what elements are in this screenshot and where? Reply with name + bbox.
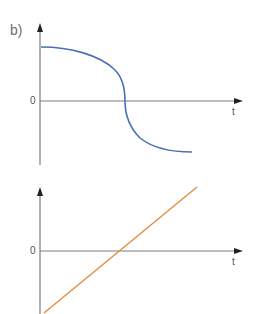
plot-2-x-arrow-icon xyxy=(234,248,243,254)
plot-2-zero-label: 0 xyxy=(30,246,36,256)
plot-1-curve xyxy=(41,47,192,152)
plot-1-axes xyxy=(37,23,243,165)
plot-2-y-arrow-icon xyxy=(37,187,43,196)
plot-2-line xyxy=(44,187,197,313)
charts-canvas xyxy=(0,0,255,314)
plot-1-t-label: t xyxy=(232,107,235,117)
plot-2-t-label: t xyxy=(232,257,235,267)
plot-2-axes xyxy=(37,187,243,314)
plot-1-zero-label: 0 xyxy=(30,96,36,106)
plot-1-x-arrow-icon xyxy=(234,98,243,104)
plot-1-y-arrow-icon xyxy=(37,23,43,32)
